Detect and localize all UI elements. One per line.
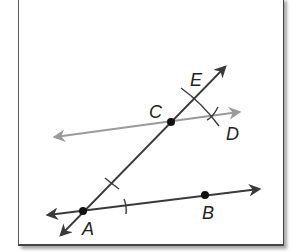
label-e: E xyxy=(190,70,203,90)
point-a xyxy=(79,207,87,215)
point-c xyxy=(167,118,175,126)
label-a: A xyxy=(81,219,94,239)
label-b: B xyxy=(202,203,214,223)
label-c: C xyxy=(149,102,163,122)
construction-diagram: E C D A B xyxy=(0,0,296,252)
label-d: D xyxy=(226,124,239,144)
point-b xyxy=(201,191,209,199)
